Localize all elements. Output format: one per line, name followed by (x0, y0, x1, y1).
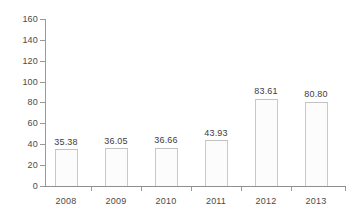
x-tick-mark (241, 187, 242, 191)
x-axis-label-2011: 2011 (191, 196, 241, 206)
bar-value-label-2013: 80.80 (289, 89, 343, 99)
bar-2013[interactable] (305, 102, 328, 186)
x-tick-mark (291, 187, 292, 191)
bar-chart: 0 20 40 60 80 100 120 140 160 35.38 36.0… (0, 0, 354, 220)
bar-2011[interactable] (205, 140, 228, 186)
x-tick-mark (141, 187, 142, 191)
bar-value-label-2008: 35.38 (39, 137, 93, 147)
bar-2010[interactable] (155, 148, 178, 186)
x-axis-label-2009: 2009 (91, 196, 141, 206)
bar-value-label-2010: 36.66 (139, 135, 193, 145)
bar-2008[interactable] (55, 149, 78, 186)
x-axis-label-2010: 2010 (141, 196, 191, 206)
y-tick-label-40: 40 (0, 140, 38, 149)
bar-2012[interactable] (255, 99, 278, 186)
bar-value-label-2009: 36.05 (89, 136, 143, 146)
y-tick-label-80: 80 (0, 98, 38, 107)
y-tick-label-100: 100 (0, 78, 38, 87)
plot-area (45, 19, 345, 186)
x-axis-label-2013: 2013 (291, 196, 341, 206)
x-tick-mark (91, 187, 92, 191)
bar-2009[interactable] (105, 148, 128, 186)
bar-value-label-2012: 83.61 (239, 86, 293, 96)
y-tick-label-120: 120 (0, 57, 38, 66)
y-tick-label-60: 60 (0, 119, 38, 128)
y-tick-label-140: 140 (0, 36, 38, 45)
y-tick-mark (40, 186, 45, 187)
y-tick-label-160: 160 (0, 15, 38, 24)
y-tick-label-20: 20 (0, 161, 38, 170)
x-axis-label-2008: 2008 (41, 196, 91, 206)
x-axis-label-2012: 2012 (241, 196, 291, 206)
x-tick-mark (345, 187, 346, 191)
y-tick-label-0: 0 (0, 182, 38, 191)
bar-value-label-2011: 43.93 (189, 128, 243, 138)
x-tick-mark (191, 187, 192, 191)
